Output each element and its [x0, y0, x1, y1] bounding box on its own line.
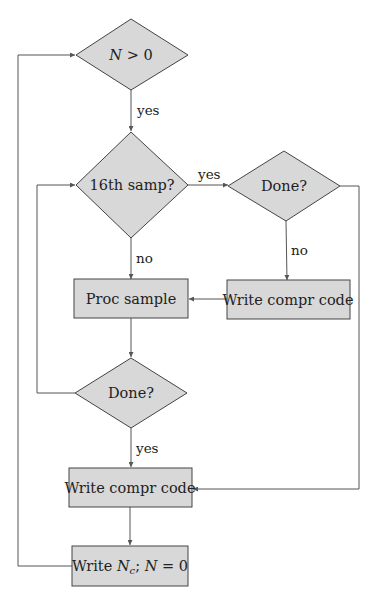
edge-label-yes: yes — [135, 440, 159, 456]
node-label: Write compr code — [65, 480, 196, 496]
node-write-nc: Write Nc; N = 0 — [72, 546, 188, 586]
edge-done-center-to-16th — [37, 185, 75, 393]
node-n-gt-0: N > 0 — [76, 19, 188, 90]
edge-done-right-to-write-bottom — [193, 186, 359, 489]
node-label: Done? — [261, 178, 307, 194]
node-label: 16th samp? — [89, 177, 174, 193]
node-label: N > 0 — [108, 47, 152, 63]
node-write-compr-code-bottom: Write compr code — [65, 468, 196, 507]
edge-label-yes: yes — [197, 166, 221, 182]
edge-done-right-to-write — [286, 221, 287, 280]
node-proc-sample: Proc sample — [74, 279, 188, 318]
node-label: Done? — [108, 385, 154, 401]
node-done-right: Done? — [228, 151, 340, 221]
edge-label-no: no — [291, 242, 308, 258]
flowchart: yes yes no no yes N > 0 16th samp? Done?… — [0, 0, 375, 603]
node-16th-samp: 16th samp? — [76, 132, 188, 238]
node-label: Write compr code — [223, 292, 354, 308]
node-write-compr-code-right: Write compr code — [223, 280, 354, 319]
node-label: Proc sample — [86, 291, 176, 307]
edge-label-yes: yes — [136, 102, 160, 118]
edge-label-no: no — [136, 250, 153, 266]
node-done-center: Done? — [75, 358, 187, 428]
